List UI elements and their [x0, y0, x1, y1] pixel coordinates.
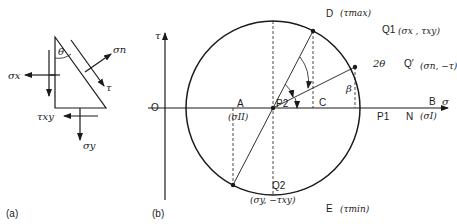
sigma-i-label: (σI) [420, 111, 437, 122]
mohr-axes [148, 33, 448, 200]
tau-label: τ [106, 82, 112, 93]
q1-coords: (σx , τxy) [398, 26, 440, 37]
beta-label: β [346, 83, 352, 94]
label-a: A [237, 98, 244, 109]
two-theta-label: 2θ [373, 58, 385, 69]
caption-a: (a) [6, 208, 18, 219]
qprime-coords: (σn, −τ) [420, 61, 457, 72]
sigma-y-label: σy [83, 140, 95, 151]
tau-min-label: (τmin) [340, 204, 369, 215]
tau-xy-label: τxy [37, 111, 54, 122]
label-qprime: Q′ [404, 58, 414, 69]
stress-element [25, 37, 111, 140]
sigma-x-label: σx [8, 70, 20, 81]
caption-b: (b) [152, 208, 164, 219]
theta-label: θ [58, 46, 64, 57]
q2-coords: (σy, −τxy) [250, 195, 295, 206]
label-p1: P1 [377, 111, 389, 122]
sigma-ii-label: (σII) [228, 112, 248, 123]
tau-max-label: (τmax) [340, 8, 371, 19]
origin-label: O [151, 102, 159, 113]
sigma-n-arrow [85, 54, 111, 72]
beta-arc [285, 84, 293, 97]
tau-axis-label: τ [155, 30, 161, 41]
label-b: B [429, 96, 436, 107]
label-q1: Q1 [382, 24, 395, 35]
label-c: C [319, 97, 326, 108]
sigma-axis-label: σ [442, 96, 449, 107]
label-d: D [326, 8, 333, 19]
label-q2: Q2 [272, 180, 285, 191]
sigma-n-label: σn [113, 44, 126, 55]
label-p2: P2 [276, 98, 288, 109]
two-theta-arc [300, 57, 309, 88]
label-e: E [326, 203, 333, 214]
label-n: N [406, 111, 413, 122]
